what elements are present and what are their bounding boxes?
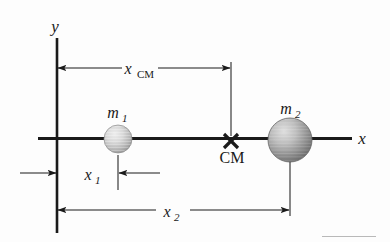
mass-m2-label-base: m	[280, 100, 292, 117]
mass-m1-label-subscript: 1	[122, 112, 128, 124]
x1-label-base: x	[83, 166, 91, 183]
x-cm-label-base: x	[123, 60, 131, 77]
x2-label-base: x	[162, 203, 170, 220]
x-cm-label-subscript: CM	[137, 68, 154, 80]
figure-background	[0, 0, 390, 242]
x-axis-label: x	[357, 129, 366, 148]
mass-m2-label-subscript: 2	[295, 108, 301, 120]
center-of-mass-figure: y x x CM x 1 x 2 m 1 m 2 CM	[0, 0, 390, 242]
center-of-mass-label: CM	[220, 149, 245, 166]
mass-m1-label-base: m	[107, 104, 119, 121]
x1-label-subscript: 1	[95, 174, 101, 186]
x2-label-subscript: 2	[174, 211, 180, 223]
figure-canvas: y x x CM x 1 x 2 m 1 m 2 CM	[0, 0, 390, 242]
y-axis-label: y	[49, 17, 59, 36]
